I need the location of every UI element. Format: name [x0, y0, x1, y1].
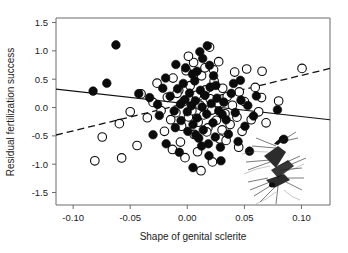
data-point — [197, 142, 206, 151]
data-point — [234, 137, 243, 146]
data-point — [209, 119, 218, 128]
data-point — [175, 148, 184, 157]
data-point — [160, 127, 169, 136]
data-point — [236, 76, 245, 85]
y-tick-label: -1.0 — [32, 159, 48, 170]
data-point — [230, 68, 239, 77]
data-point — [218, 110, 227, 119]
data-point — [202, 110, 211, 119]
data-point — [162, 140, 171, 149]
data-point — [158, 84, 167, 93]
data-point — [133, 141, 142, 150]
data-point — [205, 151, 214, 160]
data-point — [112, 41, 121, 50]
y-axis-title: Residual fertilization success — [5, 48, 16, 176]
data-point — [198, 54, 207, 63]
data-point — [217, 157, 226, 166]
data-point — [245, 147, 254, 156]
y-tick-label: 0.5 — [35, 74, 48, 85]
data-point — [98, 133, 107, 142]
y-tick-label: -0.5 — [32, 130, 48, 141]
data-point — [212, 81, 221, 90]
data-point — [274, 97, 283, 106]
data-point — [170, 107, 179, 116]
data-point — [235, 88, 244, 97]
data-point — [184, 52, 193, 61]
x-tick-label: -0.05 — [119, 212, 141, 223]
x-axis-title: Shape of genital sclerite — [140, 231, 247, 242]
data-point — [149, 130, 158, 139]
data-point — [203, 41, 212, 50]
data-point — [115, 119, 124, 128]
data-point — [205, 61, 214, 70]
x-tick-label: -0.10 — [62, 212, 84, 223]
y-tick-label: 1.5 — [35, 17, 48, 28]
data-point — [91, 157, 100, 166]
data-point — [161, 74, 170, 83]
data-point — [241, 122, 250, 131]
data-point — [143, 113, 152, 122]
plot-canvas: -0.10-0.050.000.050.10 1.51.00.50.0-0.5-… — [0, 0, 348, 253]
data-point — [214, 57, 223, 66]
data-point — [242, 65, 251, 74]
data-point — [262, 119, 271, 128]
data-point — [216, 143, 225, 152]
x-tick-label: 0.05 — [235, 212, 254, 223]
data-point — [153, 100, 162, 109]
data-point — [273, 106, 282, 115]
data-point — [252, 92, 261, 101]
data-point — [185, 89, 194, 98]
data-point — [224, 130, 233, 139]
data-point — [117, 154, 126, 163]
y-tick-label: -1.5 — [32, 187, 48, 198]
data-point — [181, 64, 190, 73]
data-point — [220, 98, 229, 107]
data-point — [145, 93, 154, 102]
data-point — [258, 67, 267, 76]
data-point — [89, 87, 98, 96]
data-point — [199, 126, 208, 135]
data-point — [209, 72, 218, 81]
data-point — [193, 114, 202, 123]
data-point — [192, 131, 201, 140]
data-point — [103, 79, 112, 88]
data-point — [176, 138, 185, 147]
y-tick-label: 0.0 — [35, 102, 48, 113]
scatter-plot-figure: -0.10-0.050.000.050.10 1.51.00.50.0-0.5-… — [0, 0, 348, 253]
data-point — [179, 79, 188, 88]
data-point — [172, 60, 181, 69]
data-point — [188, 70, 197, 79]
data-point — [177, 116, 186, 125]
data-point — [211, 133, 220, 142]
data-point — [191, 96, 200, 105]
y-tick-label: 1.0 — [35, 45, 48, 56]
data-point — [231, 108, 240, 117]
data-point — [171, 123, 180, 132]
data-point — [155, 111, 164, 120]
x-tick-label: 0.10 — [292, 212, 311, 223]
data-point — [134, 89, 143, 98]
data-point — [298, 64, 307, 73]
data-point — [227, 89, 236, 98]
data-point — [126, 107, 135, 116]
data-point — [189, 163, 198, 172]
data-point — [201, 91, 210, 100]
data-point — [166, 92, 175, 101]
data-point — [251, 83, 260, 92]
data-point — [244, 101, 253, 110]
data-point — [197, 166, 206, 175]
data-point — [249, 112, 258, 121]
x-tick-label: 0.00 — [178, 212, 197, 223]
